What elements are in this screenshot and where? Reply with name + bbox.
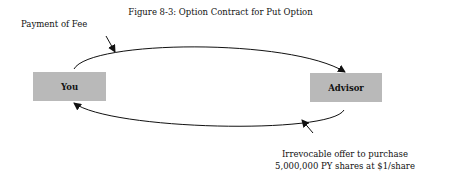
fee-label: Payment of Fee bbox=[21, 19, 87, 29]
offer-arrow bbox=[74, 103, 344, 126]
you-label: You bbox=[61, 82, 78, 92]
advisor-label: Advisor bbox=[328, 83, 364, 93]
you-node: You bbox=[33, 72, 106, 101]
fee-pointer bbox=[106, 36, 115, 52]
offer-label-line2: 5,000,000 PY shares at $1/share bbox=[255, 160, 435, 172]
offer-label: Irrevocable offer to purchase 5,000,000 … bbox=[255, 148, 435, 172]
advisor-node: Advisor bbox=[310, 73, 382, 102]
offer-label-line1: Irrevocable offer to purchase bbox=[255, 148, 435, 160]
